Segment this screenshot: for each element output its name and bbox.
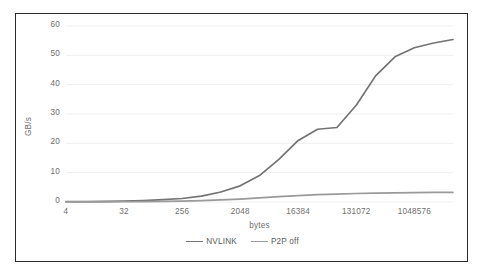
y-tick-label: 40 xyxy=(36,79,60,88)
series-lines xyxy=(66,39,453,201)
y-tick-label: 30 xyxy=(36,108,60,117)
series-line-nvlink xyxy=(66,39,453,201)
plot-area: 0102030405060 43225620481638413107210485… xyxy=(16,14,467,261)
legend-label: P2P off xyxy=(271,237,299,246)
x-tick-label: 256 xyxy=(152,207,212,216)
y-axis-title: GB/s xyxy=(24,107,33,147)
x-tick-label: 32 xyxy=(94,207,154,216)
legend-label: NVLINK xyxy=(206,237,237,246)
y-tick-label: 60 xyxy=(36,20,60,29)
legend-line-swatch xyxy=(251,241,268,242)
x-tick-label: 4 xyxy=(36,207,96,216)
y-tick-label: 50 xyxy=(36,49,60,58)
y-tick-label: 0 xyxy=(36,196,60,205)
x-tick-label: 131072 xyxy=(326,207,386,216)
x-axis-title: bytes xyxy=(66,221,453,230)
x-tick-label: 2048 xyxy=(210,207,270,216)
legend-line-swatch xyxy=(186,241,203,242)
legend-item[interactable]: P2P off xyxy=(251,237,299,246)
y-tick-label: 10 xyxy=(36,167,60,176)
x-tick-label: 16384 xyxy=(268,207,328,216)
legend-item[interactable]: NVLINK xyxy=(186,237,237,246)
chart-legend: NVLINKP2P off xyxy=(16,237,469,246)
chart-frame: 0102030405060 43225620481638413107210485… xyxy=(15,13,468,262)
x-tick-label: 1048576 xyxy=(384,207,444,216)
y-tick-label: 20 xyxy=(36,137,60,146)
